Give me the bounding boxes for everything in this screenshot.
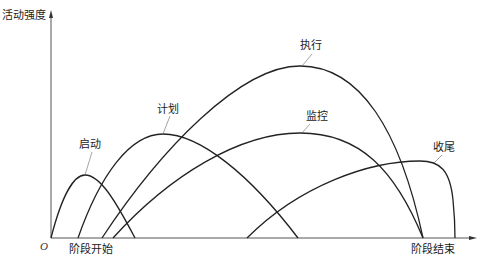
y-axis-label: 活动强度 [2, 10, 46, 22]
phase-end-label: 阶段结束 [411, 244, 455, 256]
leader-closing [434, 155, 442, 163]
leader-executing [302, 54, 312, 66]
phase-start-label: 阶段开始 [69, 244, 113, 256]
y-axis-arrow-icon [49, 10, 53, 18]
label-initiating: 启动 [79, 139, 101, 151]
leader-monitoring [302, 124, 310, 133]
label-planning: 计划 [157, 104, 179, 116]
curve-executing [102, 66, 423, 238]
label-closing: 收尾 [433, 142, 455, 154]
curve-closing [247, 161, 455, 238]
leader-planning [163, 116, 170, 134]
x-axis-arrow-icon [469, 236, 477, 240]
label-executing: 执行 [300, 40, 322, 52]
origin-label: O [40, 240, 48, 252]
leader-initiating [85, 152, 92, 175]
curve-monitoring [113, 133, 423, 238]
process-groups-diagram [0, 0, 488, 269]
label-monitoring: 监控 [306, 111, 328, 123]
